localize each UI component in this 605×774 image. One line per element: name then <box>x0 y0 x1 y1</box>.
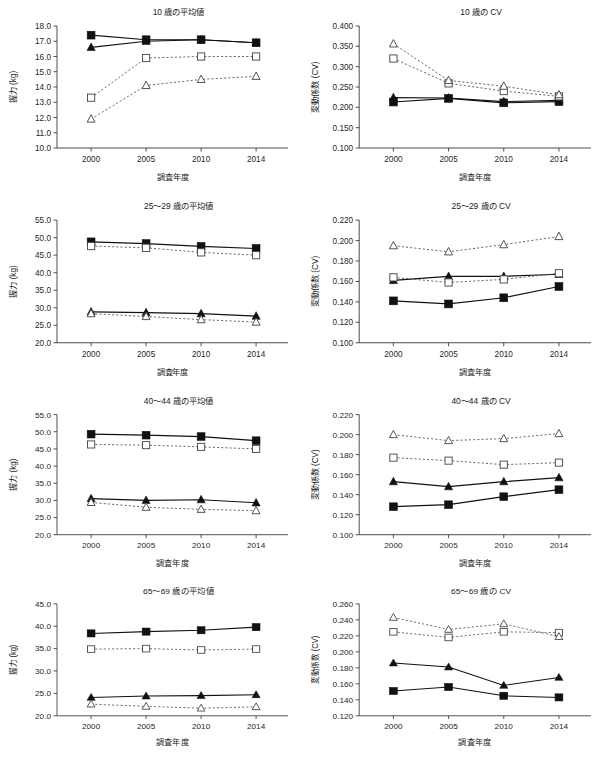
data-point-male_ref <box>390 454 397 461</box>
panel-title: 25～29 歳の CV <box>452 201 511 211</box>
data-point-male_ref <box>198 53 205 60</box>
series-line-female_measured <box>91 695 256 698</box>
data-point-female_ref <box>555 429 563 436</box>
figure-caption <box>0 758 605 774</box>
data-point-male_ref <box>253 252 260 259</box>
series-line-female_ref <box>393 236 559 251</box>
y-tick-label: 16.0 <box>35 53 51 62</box>
y-tick-label: 0.140 <box>333 298 354 307</box>
data-point-male_measured <box>445 501 453 509</box>
y-tick-label: 0.200 <box>333 103 354 112</box>
panel-title: 10 歳の CV <box>460 7 502 17</box>
data-point-male_measured <box>252 437 260 445</box>
data-point-female_measured <box>389 93 397 101</box>
y-tick-label: 0.100 <box>333 531 354 540</box>
data-point-male_ref <box>500 461 507 468</box>
series-line-female_measured <box>393 663 559 685</box>
x-tick-label: 2014 <box>550 542 569 551</box>
data-point-female_ref <box>252 506 260 513</box>
y-axis-label: 握力 (kg) <box>8 458 18 490</box>
data-point-male_ref <box>198 443 205 450</box>
y-tick-label: 0.180 <box>333 257 354 266</box>
y-tick-label: 10.0 <box>35 144 51 153</box>
y-tick-label: 0.160 <box>333 277 354 286</box>
data-point-female_measured <box>555 673 563 680</box>
x-tick-label: 2000 <box>82 542 101 551</box>
data-point-male_ref <box>390 629 397 636</box>
data-point-male_ref <box>253 445 260 452</box>
data-point-male_ref <box>555 459 562 466</box>
x-tick-label: 2010 <box>495 722 514 731</box>
x-tick-label: 2014 <box>247 542 266 551</box>
y-tick-label: 0.160 <box>333 471 354 480</box>
y-tick-label: 20.0 <box>35 712 52 721</box>
data-point-male_measured <box>87 430 95 438</box>
y-tick-label: 40.0 <box>35 269 51 278</box>
data-point-female_measured <box>389 659 397 666</box>
series-line-female_ref <box>91 704 256 708</box>
x-axis-label: 調査年度 <box>157 367 189 377</box>
y-axis-label: 変動係数 (CV) <box>310 635 320 683</box>
data-point-male_ref <box>445 457 452 464</box>
data-point-male_ref <box>253 53 260 60</box>
y-tick-label: 20.0 <box>35 339 51 348</box>
data-point-male_measured <box>197 433 205 441</box>
x-tick-label: 2010 <box>495 542 514 551</box>
data-point-male_measured <box>555 283 563 291</box>
y-tick-label: 0.200 <box>333 648 354 657</box>
data-point-male_measured <box>500 692 508 699</box>
y-tick-label: 55.0 <box>35 216 51 225</box>
data-point-female_ref <box>252 703 260 710</box>
data-point-male_measured <box>389 503 397 511</box>
chart-panel-cv-40-44: 40～44 歳の CV0.1000.1200.1400.1600.1800.20… <box>302 389 605 580</box>
data-point-male_measured <box>500 294 508 302</box>
data-point-male_ref <box>198 647 205 654</box>
y-tick-label: 30.0 <box>35 667 52 676</box>
series-line-male_measured <box>91 627 256 633</box>
x-axis-label: 調査年度 <box>459 172 491 182</box>
data-point-female_ref <box>555 232 563 239</box>
y-tick-label: 0.300 <box>333 63 354 72</box>
series-line-male_ref <box>393 632 559 638</box>
series-line-male_measured <box>91 242 256 249</box>
data-point-female_measured <box>142 692 150 699</box>
y-tick-label: 14.0 <box>35 83 51 92</box>
data-point-female_ref <box>500 620 508 627</box>
panel-title: 25～29 歳の平均値 <box>144 201 214 211</box>
data-point-female_ref <box>445 436 453 443</box>
x-tick-label: 2014 <box>247 350 266 359</box>
data-point-male_ref <box>143 54 150 61</box>
panel-title: 65～69 歳の CV <box>451 586 512 596</box>
y-tick-label: 0.180 <box>333 664 354 673</box>
series-line-female_ref <box>91 76 256 119</box>
y-tick-label: 0.220 <box>333 632 354 641</box>
data-point-female_ref <box>252 72 260 79</box>
data-point-male_ref <box>500 629 507 636</box>
panel-title: 65～69 歳の平均値 <box>143 586 214 596</box>
y-tick-label: 0.200 <box>333 431 354 440</box>
y-tick-label: 35.0 <box>35 645 52 654</box>
y-tick-label: 0.120 <box>333 712 354 721</box>
x-tick-label: 2000 <box>384 722 403 731</box>
y-tick-label: 0.100 <box>333 144 354 153</box>
x-axis-label: 調査年度 <box>459 367 491 377</box>
x-axis-label: 調査年度 <box>459 558 491 568</box>
y-tick-label: 25.0 <box>35 321 51 330</box>
y-tick-label: 25.0 <box>35 514 51 523</box>
series-line-male_ref <box>393 458 559 465</box>
data-point-female_ref <box>87 700 95 707</box>
y-tick-label: 0.140 <box>333 491 354 500</box>
x-tick-label: 2000 <box>82 155 101 164</box>
x-tick-label: 2005 <box>439 542 458 551</box>
panel-title: 40～44 歳の CV <box>451 396 511 406</box>
data-point-male_ref <box>88 242 95 249</box>
figure-panel-grid: 10 歳の平均値10.011.012.013.014.015.016.017.0… <box>0 0 605 758</box>
series-line-male_measured <box>393 287 559 304</box>
y-tick-label: 50.0 <box>35 234 51 243</box>
data-point-male_measured <box>142 431 150 439</box>
data-point-male_ref <box>445 279 452 286</box>
y-tick-label: 0.100 <box>333 339 354 348</box>
series-line-female_measured <box>393 274 559 280</box>
panel-title: 10 歳の平均値 <box>153 7 206 17</box>
data-point-male_measured <box>142 628 150 635</box>
